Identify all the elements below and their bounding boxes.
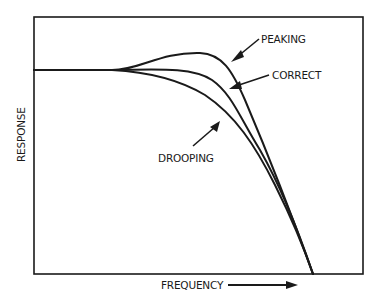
plot-frame — [34, 17, 363, 274]
x-axis-label: FREQUENCY — [161, 279, 224, 291]
curve-correct — [34, 69, 313, 274]
correct-arrow — [229, 75, 269, 89]
drooping-arrow — [193, 121, 220, 146]
label-drooping: DROOPING — [158, 152, 214, 164]
frequency-response-chart: PEAKING CORRECT DROOPING FREQUENCY RESPO… — [0, 0, 377, 301]
label-peaking: PEAKING — [261, 33, 306, 45]
label-correct: CORRECT — [272, 69, 322, 81]
x-axis-arrow — [228, 281, 298, 289]
y-axis-label: RESPONSE — [15, 107, 27, 162]
peaking-arrow — [231, 39, 259, 62]
